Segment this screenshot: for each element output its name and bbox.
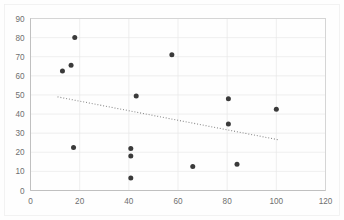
outer-frame-rect <box>5 5 340 216</box>
data-point <box>128 154 133 159</box>
x-tick-label: 80 <box>223 197 233 206</box>
y-tick-label: 60 <box>15 72 25 81</box>
data-point <box>226 96 231 101</box>
chart-outer-frame <box>5 5 340 216</box>
data-point <box>169 52 174 57</box>
x-tick-label: 60 <box>173 197 183 206</box>
data-point <box>72 35 77 40</box>
data-point <box>128 176 133 181</box>
y-tick-label: 50 <box>15 91 25 100</box>
scatter-chart: 020406080100120 0102030405060708090 <box>0 0 344 220</box>
data-point <box>235 162 240 167</box>
data-point <box>60 69 65 74</box>
data-point <box>69 63 74 68</box>
x-tick-label: 100 <box>269 197 283 206</box>
y-tick-label: 0 <box>20 187 25 196</box>
x-tick-label: 120 <box>319 197 333 206</box>
data-point <box>274 107 279 112</box>
data-point <box>226 121 231 126</box>
y-axis-tick-labels: 0102030405060708090 <box>15 15 25 196</box>
data-point <box>190 164 195 169</box>
y-tick-label: 40 <box>15 110 25 119</box>
y-tick-label: 80 <box>15 34 25 43</box>
x-tick-label: 20 <box>75 197 85 206</box>
y-tick-label: 20 <box>15 148 25 157</box>
x-tick-label: 40 <box>124 197 134 206</box>
data-point <box>128 146 133 151</box>
data-point <box>71 145 76 150</box>
x-axis-tick-labels: 020406080100120 <box>28 197 333 206</box>
gridlines <box>31 19 326 191</box>
data-point <box>134 93 139 98</box>
chart-svg: 020406080100120 0102030405060708090 <box>0 0 344 220</box>
y-tick-label: 70 <box>15 53 25 62</box>
y-tick-label: 90 <box>15 15 25 24</box>
x-tick-label: 0 <box>28 197 33 206</box>
y-tick-label: 10 <box>15 167 25 176</box>
y-tick-label: 30 <box>15 129 25 138</box>
